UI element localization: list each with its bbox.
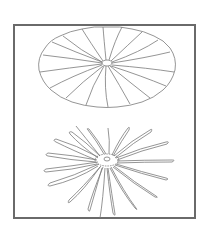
open-canopy xyxy=(39,27,176,108)
collapsed-canopy xyxy=(44,126,174,218)
parachute-illustration xyxy=(0,0,212,239)
